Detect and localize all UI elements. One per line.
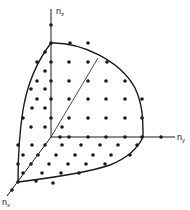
lattice-point xyxy=(35,60,39,64)
lattice-point xyxy=(49,60,53,64)
lattice-point xyxy=(123,97,127,101)
lattice-point xyxy=(84,162,88,166)
lattice-point xyxy=(109,153,113,157)
lattice-point xyxy=(104,116,108,120)
radius-line xyxy=(51,58,98,137)
lattice-point xyxy=(86,116,90,120)
lattice-point xyxy=(104,97,108,101)
lattice-point xyxy=(29,125,33,129)
lattice-point xyxy=(86,97,90,101)
lattice-point xyxy=(34,179,38,183)
lattice-point xyxy=(91,153,95,157)
lattice-point xyxy=(67,60,71,64)
lattice-point xyxy=(49,97,53,101)
lattice-point xyxy=(79,143,83,147)
lattice-point xyxy=(104,135,108,139)
lattice-point xyxy=(43,50,47,54)
lattice-point xyxy=(43,87,47,91)
lattice-point xyxy=(21,171,25,175)
lattice-point xyxy=(29,87,33,91)
lattice-point xyxy=(49,41,53,45)
lattice-point xyxy=(105,60,109,64)
lattice-point xyxy=(60,143,64,147)
diagram: nz ny nx xyxy=(0,0,190,210)
lattice-point xyxy=(43,69,47,73)
lattice-point xyxy=(123,79,127,83)
lattice-point xyxy=(51,181,55,185)
lattice-point xyxy=(104,79,108,83)
lattice-point xyxy=(10,188,14,192)
x-axis-label: nx xyxy=(2,197,10,208)
lattice-point xyxy=(140,116,144,120)
lattice-point xyxy=(98,143,102,147)
lattice-point xyxy=(21,116,25,120)
z-axis-label: nz xyxy=(56,6,64,17)
lattice-point xyxy=(67,135,71,139)
lattice-point xyxy=(40,171,44,175)
lattice-point xyxy=(73,153,77,157)
lattice-point xyxy=(123,135,127,139)
lattice-point xyxy=(43,125,47,129)
lattice-point xyxy=(58,135,62,139)
lattice-point xyxy=(36,153,40,157)
lattice-point xyxy=(86,135,90,139)
arc-zx xyxy=(18,43,51,182)
lattice-point xyxy=(54,153,58,157)
lattice-point xyxy=(49,116,53,120)
y-axis-label: ny xyxy=(177,132,185,143)
lattice-point xyxy=(35,97,39,101)
lattice-point xyxy=(35,79,39,83)
lattice-point xyxy=(128,153,132,157)
octant-diagram: nz ny nx xyxy=(0,0,190,210)
lattice-point xyxy=(67,116,71,120)
lattice-point xyxy=(47,162,51,166)
lattice-point xyxy=(16,143,20,147)
arc-zy xyxy=(51,43,143,137)
lattice-point xyxy=(67,97,71,101)
lattice-point xyxy=(77,171,81,175)
lattice-point xyxy=(86,79,90,83)
lattice-point xyxy=(116,143,120,147)
lattice-point xyxy=(140,135,144,139)
lattice-point xyxy=(43,143,47,147)
lattice-point xyxy=(140,97,144,101)
lattice-point xyxy=(59,171,63,175)
lattice-point xyxy=(67,79,71,83)
lattice-point xyxy=(68,41,72,45)
lattice-point xyxy=(21,153,25,157)
lattice-point xyxy=(86,41,90,45)
lattice-point xyxy=(43,106,47,110)
lattice-point xyxy=(49,23,53,27)
lattice-point xyxy=(123,116,127,120)
lattice-point xyxy=(16,162,20,166)
lattice-point xyxy=(49,79,53,83)
lattice-point xyxy=(103,162,107,166)
lattice-point xyxy=(159,135,163,139)
lattice-points xyxy=(10,23,163,192)
lattice-point xyxy=(16,180,20,184)
lattice-point xyxy=(60,125,64,129)
lattice-point xyxy=(135,143,139,147)
lattice-point xyxy=(86,60,90,64)
lattice-point xyxy=(29,162,33,166)
lattice-point xyxy=(30,143,34,147)
lattice-point xyxy=(30,106,34,110)
lattice-point xyxy=(66,162,70,166)
